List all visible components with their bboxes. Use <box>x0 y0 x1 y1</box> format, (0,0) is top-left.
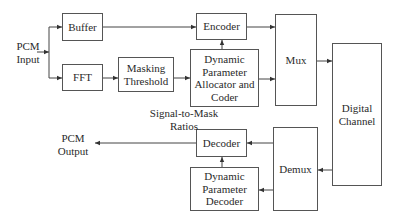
allocator-coder-block: Dynamic Parameter Allocator and Coder <box>190 49 259 107</box>
smr-line2: Ratios <box>138 120 230 133</box>
encoder-block: Encoder <box>196 13 247 40</box>
decoder-block: Decoder <box>196 129 247 157</box>
alloc-line1: Dynamic <box>194 53 254 66</box>
alloc-line3: Allocator and <box>194 78 254 91</box>
digital-channel-block: Digital Channel <box>332 43 382 186</box>
masking-line1: Masking <box>124 62 169 75</box>
decoder-label: Decoder <box>203 137 240 150</box>
smr-line1: Signal-to-Mask <box>138 107 230 120</box>
fft-block: FFT <box>62 64 103 91</box>
mux-label: Mux <box>286 54 307 67</box>
demux-block: Demux <box>273 127 318 211</box>
demux-label: Demux <box>279 163 311 176</box>
buffer-label: Buffer <box>68 21 97 34</box>
channel-line2: Channel <box>339 115 376 128</box>
masking-line2: Threshold <box>124 75 169 88</box>
mux-block: Mux <box>275 14 317 106</box>
pcm-output-label: PCM Output <box>56 132 90 157</box>
channel-line1: Digital <box>339 102 376 115</box>
encoder-label: Encoder <box>203 20 240 33</box>
pcm-input-line1: PCM <box>14 40 42 53</box>
smr-label: Signal-to-Mask Ratios <box>138 107 230 132</box>
param-decoder-block: Dynamic Parameter Decoder <box>190 167 259 211</box>
pcm-input-label: PCM Input <box>14 40 42 65</box>
pdec-line3: Decoder <box>202 195 247 208</box>
fft-label: FFT <box>73 71 92 84</box>
pcm-output-line1: PCM <box>56 132 90 145</box>
pcm-input-line2: Input <box>14 53 42 66</box>
alloc-line2: Parameter <box>194 66 254 79</box>
pdec-line1: Dynamic <box>202 170 247 183</box>
pdec-line2: Parameter <box>202 183 247 196</box>
masking-threshold-block: Masking Threshold <box>118 57 174 92</box>
buffer-block: Buffer <box>62 13 103 41</box>
alloc-line4: Coder <box>194 91 254 104</box>
pcm-output-line2: Output <box>56 145 90 158</box>
